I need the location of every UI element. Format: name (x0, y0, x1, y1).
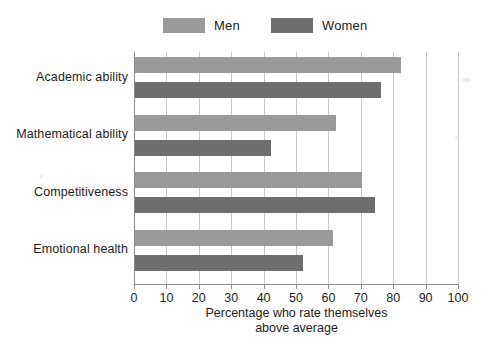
chart-figure: Men Women Academic ability Mathematical … (0, 0, 499, 352)
x-axis-title-line1: Percentage who rate themselves (134, 306, 459, 321)
scan-speck (462, 78, 471, 82)
x-tick-100 (458, 284, 459, 289)
category-label-academic-ability: Academic ability (4, 70, 128, 84)
legend-swatch-men (163, 18, 205, 33)
gridline-80 (393, 52, 394, 284)
legend-label-women: Women (322, 18, 368, 33)
gridline-90 (426, 52, 427, 284)
y-axis-line (134, 52, 135, 284)
bar-women-emotional-health (135, 255, 303, 271)
plot-area: 0102030405060708090100 (134, 52, 459, 284)
x-tick-70 (361, 284, 362, 289)
bar-women-mathematical-ability (135, 140, 271, 156)
category-label-mathematical-ability: Mathematical ability (4, 127, 128, 141)
scan-speck (40, 175, 43, 178)
legend-label-men: Men (214, 18, 240, 33)
x-tick-80 (393, 284, 394, 289)
gridline-100 (458, 52, 459, 284)
x-axis-title-line2: above average (134, 321, 459, 336)
legend-swatch-women (271, 18, 313, 33)
legend-item-women: Women (271, 18, 368, 33)
bar-men-competitiveness (135, 172, 362, 188)
scan-speck (455, 136, 459, 140)
x-tick-40 (264, 284, 265, 289)
x-tick-50 (296, 284, 297, 289)
x-tick-10 (166, 284, 167, 289)
x-tick-60 (328, 284, 329, 289)
category-label-emotional-health: Emotional health (4, 242, 128, 256)
bar-men-mathematical-ability (135, 115, 336, 131)
x-tick-90 (426, 284, 427, 289)
legend-item-men: Men (163, 18, 240, 33)
x-tick-label-100: 100 (438, 291, 478, 305)
bar-men-emotional-health (135, 230, 333, 246)
category-label-competitiveness: Competitiveness (4, 185, 128, 199)
x-axis-title: Percentage who rate themselves above ave… (134, 306, 459, 336)
bar-women-competitiveness (135, 197, 375, 213)
x-tick-0 (134, 284, 135, 289)
x-tick-30 (231, 284, 232, 289)
bar-women-academic-ability (135, 82, 381, 98)
x-tick-20 (199, 284, 200, 289)
bar-men-academic-ability (135, 57, 401, 73)
chart-legend: Men Women (163, 16, 367, 34)
